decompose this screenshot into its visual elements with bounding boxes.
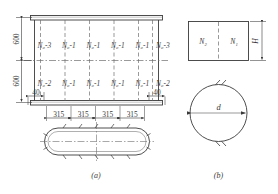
view-b-section: N₂ N₁ H d (b) [189, 22, 267, 181]
dimension-315-2: 315 [78, 110, 89, 119]
weld-label-bottom-1: N₀-2 [37, 79, 52, 88]
drawing-canvas: N₀-3 N₀-1 N₀-1 N₀-1 N₀-1 N₀-3 N₀-2 N₀-1 … [0, 0, 278, 194]
weld-label-bottom-3: N₀-1 [86, 79, 101, 88]
weld-label-top-4: N₀-1 [110, 41, 125, 50]
label-H: H [251, 38, 260, 45]
dimension-40-left: 40 [32, 88, 40, 97]
dimension-600-top: 600 [12, 33, 21, 44]
dimension-315-4: 315 [127, 110, 138, 119]
dimension-40-right: 40 [153, 88, 161, 97]
weld-label-top-1: N₀-3 [37, 41, 52, 50]
weld-label-top-5: N₀-1 [135, 41, 150, 50]
label-N2: N₂ [198, 37, 207, 46]
top-flange-plate [31, 16, 163, 21]
dimension-315-3: 315 [102, 110, 113, 119]
weld-label-bottom-4: N₀-1 [110, 79, 125, 88]
dimension-600-bottom: 600 [12, 75, 21, 86]
circular-section: d [190, 80, 247, 146]
spacing-dimension-chain: 315 315 315 315 [47, 106, 145, 121]
top-row-weld-labels: N₀-3 N₀-1 N₀-1 N₀-1 N₀-1 N₀-3 [37, 41, 170, 50]
bottom-flange-plate [31, 101, 163, 106]
label-N1: N₁ [229, 37, 238, 46]
weld-label-bottom-2: N₀-1 [61, 79, 76, 88]
bottom-row-weld-labels: N₀-2 N₀-1 N₀-1 N₀-1 N₀-1 N₀-2 [37, 79, 170, 88]
view-a-elevation: N₀-3 N₀-1 N₀-1 N₀-1 N₀-1 N₀-3 N₀-2 N₀-1 … [12, 16, 170, 181]
plan-view-obround [40, 122, 154, 161]
label-d: d [216, 103, 221, 112]
vertical-dimension-chain: 600 600 [12, 18, 33, 103]
dimension-315-1: 315 [53, 110, 64, 119]
caption-b: (b) [214, 171, 224, 180]
weld-label-top-3: N₀-1 [86, 41, 101, 50]
caption-a: (a) [91, 171, 101, 180]
weld-label-top-6: N₀-3 [155, 41, 170, 50]
weld-label-bottom-6: N₀-2 [155, 79, 170, 88]
weld-label-top-2: N₀-1 [61, 41, 76, 50]
weld-label-bottom-5: N₀-1 [135, 79, 150, 88]
height-dimension: H [250, 22, 266, 61]
technical-drawing: N₀-3 N₀-1 N₀-1 N₀-1 N₀-1 N₀-3 N₀-2 N₀-1 … [0, 0, 278, 194]
